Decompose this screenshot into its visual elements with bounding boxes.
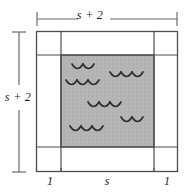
left-dimension-label: s + 2 <box>5 90 31 105</box>
bottom-middle-segment-label: s <box>95 174 119 189</box>
top-dimension-label: s + 2 <box>77 8 103 23</box>
geometry-figure: s + 2 s + 2 1 s 1 <box>0 0 187 196</box>
bottom-right-segment-label: 1 <box>155 174 179 189</box>
top-dimension-line <box>37 12 177 26</box>
bottom-left-segment-label: 1 <box>38 174 62 189</box>
inner-shaded-square <box>61 55 154 147</box>
